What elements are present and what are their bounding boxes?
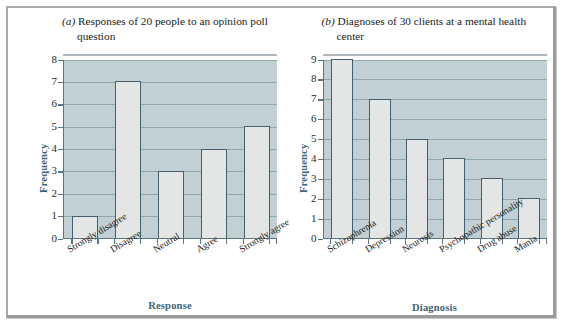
gridline [324, 159, 547, 160]
y-axis-tick-label: 6 [41, 97, 57, 109]
panel-b-tag: (b) [322, 15, 335, 27]
gridline [324, 79, 547, 80]
bar[interactable] [406, 139, 428, 238]
bar[interactable] [158, 171, 184, 238]
x-axis-tick-mark [140, 239, 141, 244]
chart-panel-b: (b) Diagnoses of 30 clients at a mental … [281, 8, 554, 315]
y-axis-tick-mark [318, 199, 323, 200]
y-axis-tick-label: 5 [41, 120, 57, 132]
y-axis-tick-mark [318, 79, 323, 80]
panel-a-title: (a) Responses of 20 people to an opinion… [62, 14, 273, 43]
bar[interactable] [244, 126, 270, 238]
panel-b-title-rule [323, 54, 547, 56]
y-axis-tick-mark [318, 119, 323, 120]
x-axis-tick-mark [276, 239, 277, 244]
gridline [64, 104, 277, 105]
y-axis-tick-mark [318, 139, 323, 140]
y-axis-tick-label: 1 [301, 212, 317, 224]
y-axis-tick-label: 4 [41, 142, 57, 154]
y-axis-tick-mark [58, 149, 63, 150]
bar[interactable] [331, 59, 353, 238]
y-axis-tick-label: 8 [41, 53, 57, 65]
y-axis-tick-mark [58, 82, 63, 83]
y-axis-tick-mark [58, 104, 63, 105]
figure-frame: (a) Responses of 20 people to an opinion… [6, 6, 556, 318]
x-axis-tick-mark [97, 239, 98, 244]
y-axis-tick-label: 0 [41, 232, 57, 244]
bar[interactable] [443, 158, 465, 238]
panel-b-title-line2: center [322, 29, 548, 44]
y-axis-tick-mark [318, 159, 323, 160]
gridline [64, 60, 277, 61]
panel-b-title: (b) Diagnoses of 30 clients at a mental … [322, 14, 548, 43]
y-axis-tick-label: 3 [301, 172, 317, 184]
panel-a-title-rule [63, 54, 277, 56]
gridline [324, 60, 547, 61]
y-axis-tick-label: 8 [301, 72, 317, 84]
panel-b-x-axis-label: Diagnosis [323, 302, 547, 313]
y-axis-tick-label: 7 [301, 92, 317, 104]
bar[interactable] [201, 149, 227, 239]
y-axis-tick-mark [58, 239, 63, 240]
y-axis-tick-mark [58, 60, 63, 61]
y-axis-tick-mark [58, 171, 63, 172]
x-axis-tick-mark [226, 239, 227, 244]
y-axis-tick-label: 5 [301, 132, 317, 144]
y-axis-tick-label: 2 [301, 192, 317, 204]
panel-a-title-line1: Responses of 20 people to an opinion pol… [78, 15, 268, 27]
panel-a-tag: (a) [62, 15, 75, 27]
gridline [324, 119, 547, 120]
y-axis-tick-mark [318, 99, 323, 100]
y-axis-tick-label: 0 [301, 232, 317, 244]
gridline [324, 219, 547, 220]
panel-b-title-line1: Diagnoses of 30 clients at a mental heal… [338, 15, 527, 27]
gridline [324, 139, 547, 140]
panel-a-title-line2: question [62, 29, 273, 44]
y-axis-tick-label: 6 [301, 112, 317, 124]
x-axis-tick-mark [183, 239, 184, 244]
panel-a-x-axis-label: Response [63, 300, 277, 311]
y-axis-tick-label: 1 [41, 209, 57, 221]
panels-container: (a) Responses of 20 people to an opinion… [8, 8, 553, 315]
y-axis-tick-label: 9 [301, 53, 317, 65]
y-axis-tick-mark [58, 127, 63, 128]
y-axis-tick-mark [58, 216, 63, 217]
y-axis-tick-label: 3 [41, 164, 57, 176]
y-axis-tick-mark [318, 219, 323, 220]
chart-panel-a: (a) Responses of 20 people to an opinion… [8, 8, 281, 315]
gridline [324, 179, 547, 180]
y-axis-tick-label: 4 [301, 152, 317, 164]
x-axis-tick-mark [269, 239, 270, 244]
panel-a-plot-area [63, 60, 277, 239]
y-axis-tick-label: 2 [41, 187, 57, 199]
y-axis-tick-mark [58, 194, 63, 195]
gridline [324, 99, 547, 100]
y-axis-tick-mark [318, 60, 323, 61]
x-axis-tick-mark [546, 239, 547, 244]
y-axis-tick-label: 7 [41, 75, 57, 87]
y-axis-tick-mark [318, 239, 323, 240]
y-axis-tick-mark [318, 179, 323, 180]
gridline [64, 82, 277, 83]
